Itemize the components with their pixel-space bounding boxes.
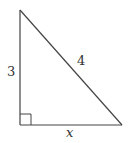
triangle-figure: 3 4 x bbox=[0, 0, 130, 143]
hypotenuse-label: 4 bbox=[77, 53, 85, 68]
right-triangle-diagram: 3 4 x bbox=[0, 0, 130, 143]
right-angle-marker bbox=[20, 114, 31, 125]
left-side-label: 3 bbox=[7, 64, 15, 79]
hypotenuse bbox=[20, 10, 122, 125]
bottom-side-label: x bbox=[66, 125, 74, 140]
